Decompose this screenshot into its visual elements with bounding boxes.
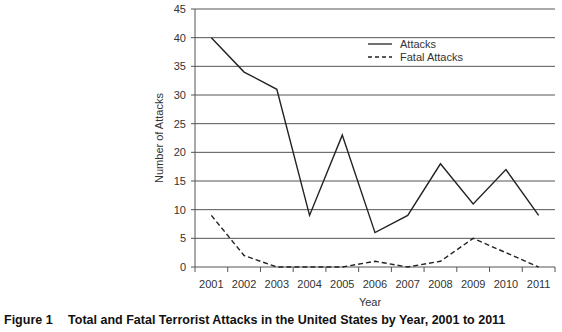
x-tick-label: 2004 — [297, 278, 321, 290]
y-tick-label: 0 — [180, 261, 186, 273]
y-tick-label: 10 — [174, 204, 186, 216]
x-tick-label: 2009 — [461, 278, 485, 290]
y-tick-label: 40 — [174, 32, 186, 44]
x-tick-label: 2011 — [527, 278, 551, 290]
x-tick-label: 2001 — [199, 278, 223, 290]
x-axis: 2001200220032004200520062007200820092010… — [195, 267, 555, 290]
x-axis-label: Year — [359, 296, 382, 308]
figure-caption: Figure 1 Total and Fatal Terrorist Attac… — [4, 313, 505, 327]
y-tick-label: 5 — [180, 232, 186, 244]
legend: AttacksFatal Attacks — [368, 38, 463, 63]
x-tick-label: 2007 — [395, 278, 419, 290]
series-fatal-attacks — [211, 215, 538, 267]
line-chart: 0510152025303540452001200220032004200520… — [0, 0, 562, 332]
x-tick-label: 2008 — [428, 278, 452, 290]
y-axis-label: Number of Attacks — [153, 93, 165, 183]
series-attacks — [211, 38, 538, 233]
y-tick-label: 20 — [174, 146, 186, 158]
x-tick-label: 2006 — [363, 278, 387, 290]
y-tick-label: 35 — [174, 60, 186, 72]
y-tick-label: 30 — [174, 89, 186, 101]
figure-label: Figure 1 — [4, 313, 53, 327]
legend-label: Fatal Attacks — [400, 51, 463, 63]
x-tick-label: 2002 — [232, 278, 256, 290]
y-tick-label: 15 — [174, 175, 186, 187]
x-tick-label: 2010 — [494, 278, 518, 290]
x-tick-label: 2005 — [330, 278, 354, 290]
gridlines: 051015202530354045 — [174, 3, 555, 273]
legend-label: Attacks — [400, 38, 437, 50]
y-tick-label: 25 — [174, 118, 186, 130]
y-tick-label: 45 — [174, 3, 186, 15]
figure-title: Total and Fatal Terrorist Attacks in the… — [68, 313, 505, 327]
x-tick-label: 2003 — [265, 278, 289, 290]
